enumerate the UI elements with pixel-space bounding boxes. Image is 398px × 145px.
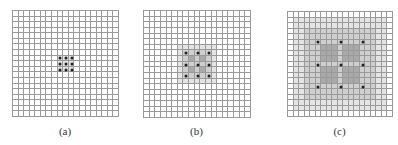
kernel-point-icon xyxy=(185,63,188,66)
kernel-point-icon xyxy=(59,63,62,66)
kernel-point-icon xyxy=(185,52,188,55)
kernel-point-icon xyxy=(317,63,320,66)
grid-cell xyxy=(245,112,251,118)
kernel-point-icon xyxy=(59,68,62,71)
kernel-point-icon xyxy=(65,57,68,60)
grid-cell xyxy=(387,111,393,117)
kernel-point-icon xyxy=(207,74,210,77)
kernel-point-icon xyxy=(70,57,73,60)
panel-label: (b) xyxy=(177,125,217,137)
grid-cell xyxy=(113,111,119,117)
grid xyxy=(287,11,393,117)
kernel-point-icon xyxy=(339,85,342,88)
kernel-point-icon xyxy=(59,57,62,60)
kernel-point-icon xyxy=(185,74,188,77)
kernel-point-icon xyxy=(196,52,199,55)
kernel-point-icon xyxy=(317,41,320,44)
kernel-point-icon xyxy=(196,74,199,77)
kernel-point-icon xyxy=(207,63,210,66)
kernel-point-icon xyxy=(361,41,364,44)
kernel-point-icon xyxy=(70,68,73,71)
kernel-point-icon xyxy=(65,63,68,66)
kernel-point-icon xyxy=(207,52,210,55)
kernel-point-icon xyxy=(361,63,364,66)
grid xyxy=(12,10,119,117)
kernel-point-icon xyxy=(339,63,342,66)
kernel-point-icon xyxy=(317,85,320,88)
kernel-point-icon xyxy=(361,85,364,88)
panel-label: (c) xyxy=(320,125,360,137)
kernel-point-icon xyxy=(196,63,199,66)
panel-label: (a) xyxy=(45,125,85,137)
kernel-point-icon xyxy=(339,41,342,44)
grid xyxy=(143,10,251,118)
kernel-point-icon xyxy=(70,63,73,66)
kernel-point-icon xyxy=(65,68,68,71)
